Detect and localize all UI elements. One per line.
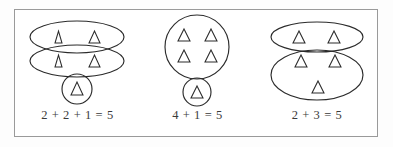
triangle-icon: [329, 55, 341, 67]
group-1-diagram: [15, 10, 140, 110]
triangle-icon: [89, 31, 100, 43]
triangle-icon: [55, 55, 62, 67]
circle-container-2a: [165, 15, 229, 79]
triangle-icon: [205, 29, 217, 41]
ellipse-container-1a: [30, 21, 124, 53]
ellipse-container-1b: [30, 45, 124, 77]
triangle-icon: [55, 31, 62, 43]
ellipse-container-3a: [271, 22, 363, 52]
figure-page: 2 + 2 + 1 = 5 4 + 1 = 5: [0, 0, 393, 147]
group-3-caption: 2 + 3 = 5: [255, 108, 379, 123]
triangle-icon: [89, 55, 100, 67]
triangle-icon: [191, 86, 203, 98]
triangle-icon: [312, 81, 324, 93]
triangle-icon: [293, 31, 305, 43]
group-1-caption: 2 + 2 + 1 = 5: [15, 108, 140, 123]
triangle-icon: [328, 31, 340, 43]
group-decomposition-2: 4 + 1 = 5: [140, 10, 255, 138]
triangle-icon: [71, 82, 83, 95]
triangle-icon: [295, 55, 307, 67]
circle-container-1c: [62, 74, 92, 104]
triangle-icon: [178, 29, 190, 41]
triangle-icon: [178, 50, 190, 62]
group-3-diagram: [255, 10, 379, 110]
group-decomposition-1: 2 + 2 + 1 = 5: [15, 10, 140, 138]
circle-container-2b: [183, 78, 211, 106]
figure-frame: 2 + 2 + 1 = 5 4 + 1 = 5: [14, 9, 378, 137]
group-decomposition-3: 2 + 3 = 5: [255, 10, 379, 138]
group-2-diagram: [140, 10, 255, 110]
triangle-icon: [205, 50, 217, 62]
group-2-caption: 4 + 1 = 5: [140, 108, 255, 123]
